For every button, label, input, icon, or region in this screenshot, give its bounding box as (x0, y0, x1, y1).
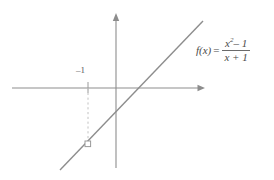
fraction: x2– 1 x + 1 (222, 38, 249, 63)
function-graph-figure: –1 f(x) = x2– 1 x + 1 (0, 0, 274, 180)
function-equation-label: f(x) = x2– 1 x + 1 (196, 38, 250, 63)
plot-canvas (0, 0, 274, 180)
equals-sign: = (213, 45, 219, 56)
x-axis (12, 85, 205, 91)
numerator-rest: – 1 (233, 37, 247, 49)
y-axis (113, 13, 119, 168)
removable-hole-marker (85, 141, 91, 147)
y-axis-arrowhead (113, 13, 119, 21)
fraction-numerator: x2– 1 (223, 38, 249, 50)
x-tick-label-neg1: –1 (76, 66, 85, 75)
function-line (60, 21, 203, 170)
x-axis-arrowhead (198, 85, 206, 91)
fraction-denominator: x + 1 (222, 51, 249, 63)
function-lhs: f(x) (196, 45, 211, 56)
